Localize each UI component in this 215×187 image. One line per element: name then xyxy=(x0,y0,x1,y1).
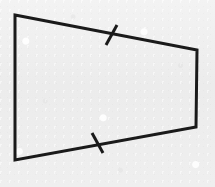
quadrilateral-outline xyxy=(15,15,197,160)
quadrilateral-svg xyxy=(0,0,215,187)
geometry-figure-canvas xyxy=(0,0,215,187)
